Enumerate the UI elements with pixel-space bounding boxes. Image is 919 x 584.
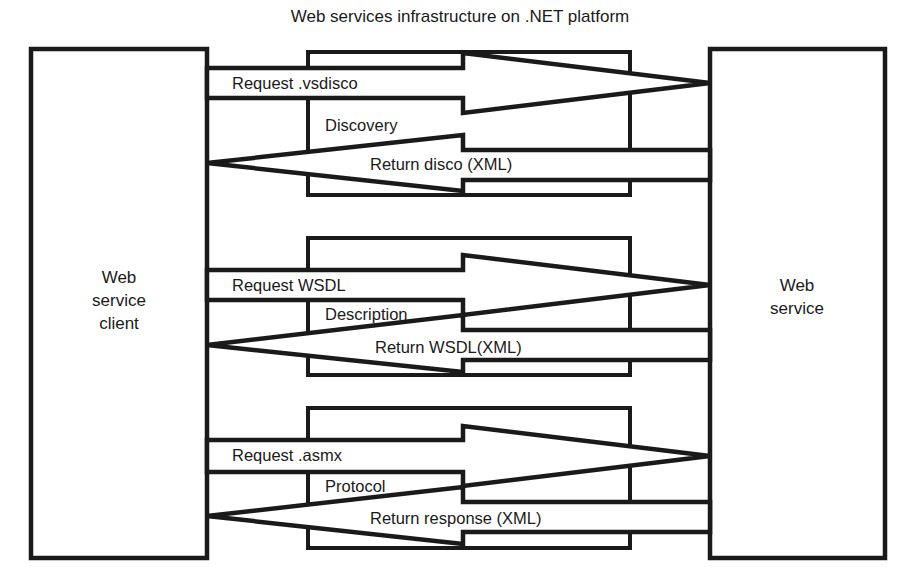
discovery-stage-label: Discovery xyxy=(325,116,398,134)
description-stage-label: Description xyxy=(325,305,408,323)
discovery-request-label: Request .vsdisco xyxy=(232,74,358,92)
description-request-label: Request WSDL xyxy=(232,276,346,294)
web-services-infrastructure-diagram: Web services infrastructure on .NET plat… xyxy=(0,0,919,584)
protocol-request-label: Request .asmx xyxy=(232,446,343,464)
diagram-title: Web services infrastructure on .NET plat… xyxy=(291,7,630,26)
protocol-stage-label: Protocol xyxy=(325,477,386,495)
service-label-line-1: Web xyxy=(780,276,815,295)
client-label-line-2: service xyxy=(92,291,146,310)
client-label-line-1: Web xyxy=(102,268,137,287)
protocol-block: Request .asmx Protocol Return response (… xyxy=(207,408,710,548)
description-block: Request WSDL Description Return WSDL(XML… xyxy=(207,238,710,375)
diagram-canvas: Web services infrastructure on .NET plat… xyxy=(0,0,919,584)
client-label-line-3: client xyxy=(99,314,139,333)
protocol-response-label: Return response (XML) xyxy=(370,509,542,527)
description-response-label: Return WSDL(XML) xyxy=(375,338,522,356)
service-label-line-2: service xyxy=(770,299,824,318)
discovery-block: Request .vsdisco Discovery Return disco … xyxy=(207,52,710,195)
discovery-response-label: Return disco (XML) xyxy=(370,155,512,173)
